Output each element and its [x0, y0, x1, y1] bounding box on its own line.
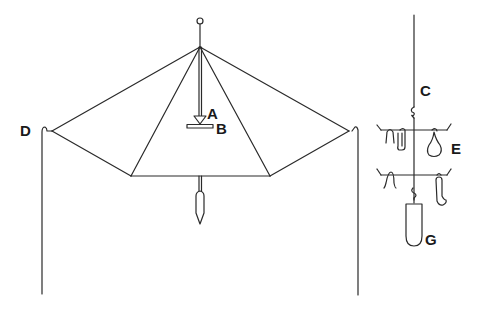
plate-b: [187, 125, 213, 129]
hook-weight-right: [436, 174, 446, 206]
label-b: B: [216, 121, 227, 136]
pear-weight-e: [428, 129, 442, 157]
label-a: A: [207, 106, 218, 121]
right-support-pole: [352, 127, 358, 295]
cylinder-weight-g: [406, 204, 422, 246]
umbrella-frame: [52, 47, 349, 176]
diagram-canvas: A B C D E G: [0, 0, 478, 313]
central-mast: [197, 18, 203, 116]
label-e: E: [451, 141, 461, 156]
plumb-weight: [196, 176, 204, 224]
hanging-assembly: [377, 15, 451, 246]
pointer-a: [194, 116, 206, 124]
label-g: G: [425, 232, 437, 247]
label-c: C: [420, 83, 431, 98]
diagram-svg: [0, 0, 478, 313]
left-support-pole: [42, 127, 52, 294]
label-d: D: [20, 123, 31, 138]
hook-c-connector: [411, 107, 414, 118]
